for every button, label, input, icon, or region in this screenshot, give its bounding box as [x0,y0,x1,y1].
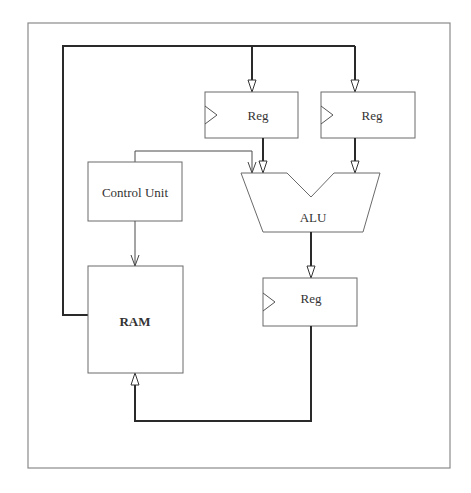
arrow-into-ram-icon [131,373,139,385]
outer-frame [28,23,450,468]
alu-label: ALU [300,210,327,225]
alu: ALU [241,173,380,232]
control-unit-label: Control Unit [102,185,168,200]
cpu-datapath-diagram: Reg Reg ALU Reg Control Unit RAM [0,0,471,493]
register-b: Reg [321,92,415,138]
register-a: Reg [205,92,298,138]
register-a-label: Reg [248,108,269,123]
arrow-into-reg-b-icon [351,80,359,92]
register-b-label: Reg [362,108,383,123]
arrow-into-reg-out-icon [307,266,315,278]
register-out: Reg [263,278,357,326]
arrow-into-alu-right-icon [351,161,359,173]
ram-label: RAM [119,314,150,329]
register-out-label: Reg [301,291,322,306]
arrow-into-alu-left-icon [259,161,267,173]
arrow-into-reg-a-icon [248,80,256,92]
control-unit: Control Unit [88,162,182,221]
ram: RAM [88,266,183,373]
